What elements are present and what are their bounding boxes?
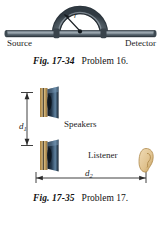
junction-right	[101, 29, 107, 39]
figure-17-34-problem: Problem 16.	[82, 56, 128, 66]
figure-panel: r Source Detector Fig. 17-34 Problem 16.	[0, 0, 161, 229]
detector-label: Detector	[125, 38, 156, 48]
speaker-bottom-dustcap	[47, 148, 51, 163]
d2-label: d2	[85, 168, 93, 179]
speaker-bottom-baffle-edge	[40, 141, 42, 170]
junction-left	[54, 29, 60, 39]
d1-arrowhead-top	[25, 93, 30, 99]
source-label: Source	[7, 38, 32, 48]
figure-17-34-caption: Fig. 17-34 Problem 16.	[0, 56, 161, 66]
listener-label: Listener	[88, 150, 118, 160]
speaker-top-dustcap	[47, 95, 51, 110]
ear-outline	[139, 148, 153, 172]
figure-17-34-artwork: r Source Detector	[0, 0, 161, 52]
d1-dimension	[21, 93, 33, 146]
speaker-top	[40, 87, 59, 119]
speakers-listener-drawing	[0, 86, 161, 196]
figure-17-34-number: Fig. 17-34	[33, 56, 75, 66]
d2-arrowhead-right	[139, 176, 145, 181]
figure-17-35-artwork: d1 Speakers Listener d2	[0, 86, 161, 196]
listener-ear-icon	[139, 148, 153, 172]
speakers-label: Speakers	[64, 119, 97, 129]
speaker-bottom	[40, 140, 59, 172]
figure-17-35: d1 Speakers Listener d2 Fig. 17-35 Probl…	[0, 86, 161, 203]
arc-center-dot	[78, 29, 82, 33]
radius-label: r	[74, 11, 77, 20]
d1-arrowhead-bottom	[25, 139, 30, 145]
d1-label: d1	[19, 121, 27, 132]
figure-17-34: r Source Detector Fig. 17-34 Problem 16.	[0, 0, 161, 66]
tube-left-cap	[5, 30, 8, 37]
d2-arrowhead-left	[37, 176, 43, 181]
speaker-top-baffle-edge	[40, 88, 42, 117]
tube-right-cap	[154, 30, 157, 37]
